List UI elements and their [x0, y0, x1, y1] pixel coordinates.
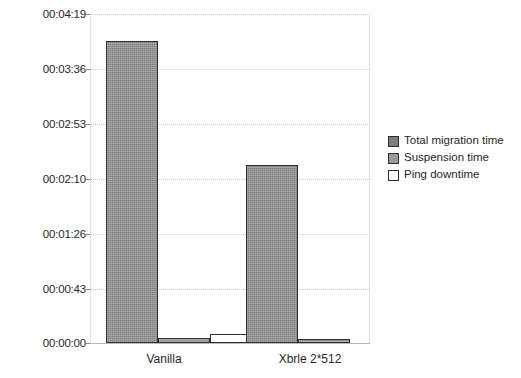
bar-vanilla-total-migration-time [106, 41, 158, 343]
y-axis-tick-label: 00:04:19 [4, 9, 86, 20]
legend-swatch-icon [388, 170, 399, 181]
y-axis-tick-label: 00:03:36 [4, 64, 86, 75]
grid-line-baseline [90, 343, 370, 344]
legend-item-label: Ping downtime [404, 168, 479, 181]
y-axis: 00:04:19 00:03:36 00:02:53 00:02:10 00:0… [0, 0, 86, 378]
legend: Total migration time Suspension time Pin… [388, 134, 518, 185]
y-axis-tick-label: 00:00:43 [4, 284, 86, 295]
x-axis-label-vanilla: Vanilla [104, 352, 224, 366]
legend-item-total-migration-time: Total migration time [388, 134, 518, 147]
y-axis-line [90, 14, 91, 343]
bar-vanilla-suspension-time [158, 338, 210, 343]
bar-xbrle-suspension-time [298, 339, 350, 343]
legend-item-ping-downtime: Ping downtime [388, 168, 518, 181]
legend-item-label: Suspension time [404, 151, 489, 164]
legend-swatch-icon [388, 136, 399, 147]
plot-right-border [369, 14, 370, 343]
legend-swatch-icon [388, 153, 399, 164]
bar-chart: 00:04:19 00:03:36 00:02:53 00:02:10 00:0… [0, 0, 521, 378]
y-axis-tick-label: 00:01:26 [4, 229, 86, 240]
bar-xbrle-total-migration-time [246, 165, 298, 343]
y-axis-tick-label: 00:02:53 [4, 119, 86, 130]
plot-area [90, 14, 370, 343]
legend-item-label: Total migration time [404, 134, 504, 147]
x-axis-label-xbrle: Xbrle 2*512 [240, 352, 380, 366]
grid-line [90, 14, 370, 15]
y-axis-tick-label: 00:00:00 [4, 338, 86, 349]
y-axis-tick-label: 00:02:10 [4, 174, 86, 185]
legend-item-suspension-time: Suspension time [388, 151, 518, 164]
